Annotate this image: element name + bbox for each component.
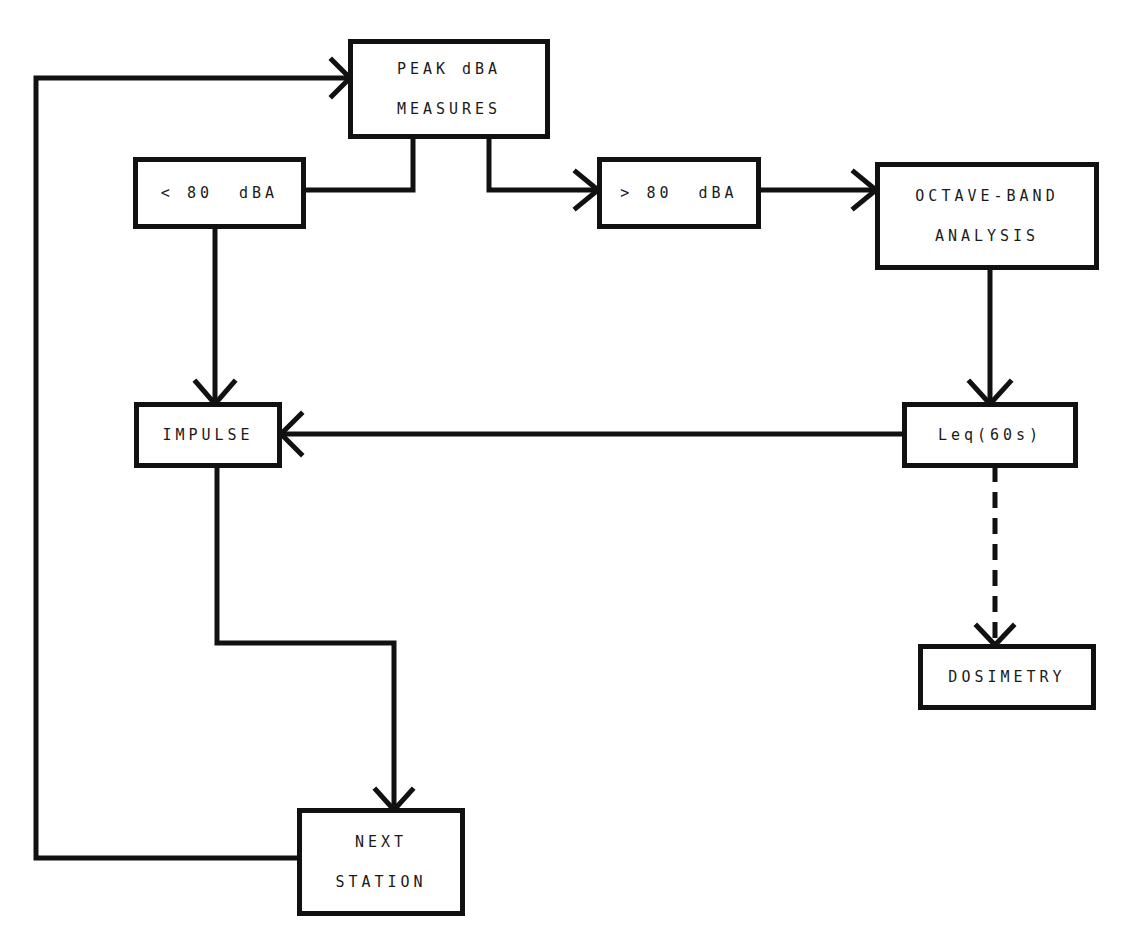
node-label: DOSIMETRY bbox=[948, 657, 1065, 697]
node-label: < 80 dBA bbox=[161, 173, 278, 213]
node-dosimetry: DOSIMETRY bbox=[918, 644, 1096, 710]
noise-survey-flowchart: PEAK dBA MEASURES < 80 dBA > 80 dBA OCTA… bbox=[0, 0, 1127, 928]
node-label: PEAK dBA bbox=[397, 49, 501, 89]
node-label: ANALYSIS bbox=[935, 216, 1039, 256]
node-label: OCTAVE-BAND bbox=[915, 176, 1058, 216]
edge-peak-to-gt80 bbox=[489, 138, 598, 190]
node-above-80-dba: > 80 dBA bbox=[597, 157, 761, 229]
edge-impulse-to-next bbox=[217, 466, 394, 810]
node-next-station: NEXT STATION bbox=[297, 808, 465, 916]
node-label: STATION bbox=[335, 862, 426, 902]
edge-peak-to-lt80 bbox=[305, 138, 413, 190]
node-impulse: IMPULSE bbox=[134, 402, 282, 468]
node-peak-dba-measures: PEAK dBA MEASURES bbox=[348, 39, 550, 139]
node-label: NEXT bbox=[355, 822, 407, 862]
node-label: MEASURES bbox=[397, 89, 501, 129]
node-octave-band-analysis: OCTAVE-BAND ANALYSIS bbox=[875, 162, 1099, 270]
node-label: IMPULSE bbox=[162, 415, 253, 455]
node-label: > 80 dBA bbox=[620, 173, 737, 213]
node-leq-60s: Leq(60s) bbox=[902, 402, 1078, 468]
node-below-80-dba: < 80 dBA bbox=[133, 157, 306, 229]
node-label: Leq(60s) bbox=[938, 415, 1042, 455]
